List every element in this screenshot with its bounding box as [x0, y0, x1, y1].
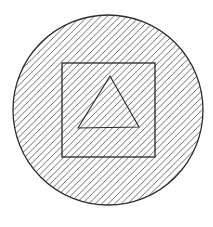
hatched-circle-figure	[0, 0, 213, 227]
figure-svg	[0, 0, 213, 227]
outer-circle	[13, 15, 203, 205]
